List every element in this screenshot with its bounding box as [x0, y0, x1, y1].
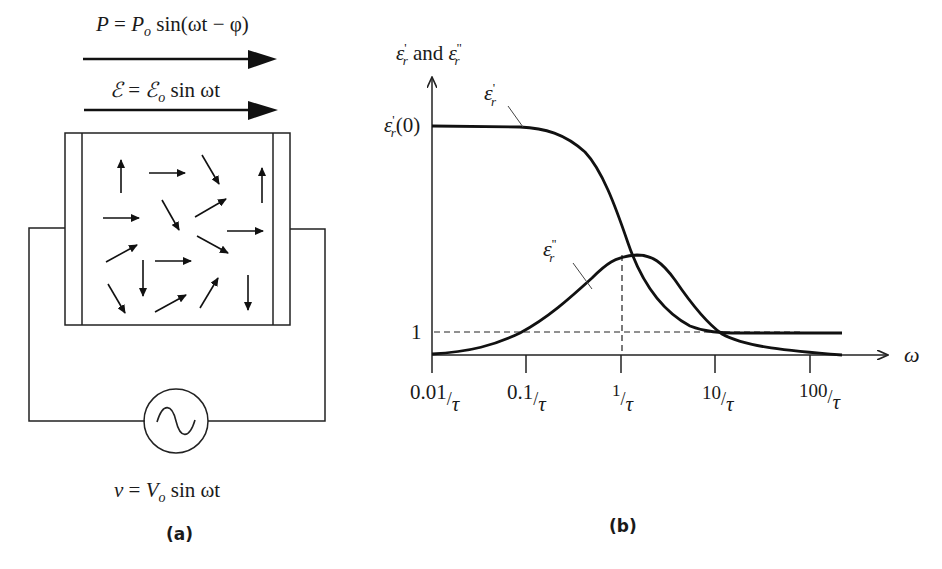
dielectric-block [65, 133, 290, 325]
source-equation: v = Vo sin ωt [114, 478, 220, 506]
ac-source-icon [144, 389, 208, 453]
x-tick-label: 100/τ [799, 378, 840, 403]
x-ticks [432, 355, 810, 373]
polarization-arrow [83, 50, 277, 69]
x-tick-label: 0.1/τ [507, 380, 546, 405]
polarization-equation: P = Po sin(ωt − φ) [96, 12, 249, 40]
curve-label-eps-real: ε'r [484, 80, 496, 110]
plot-axes [432, 77, 888, 373]
label-leader-real [508, 106, 523, 127]
x-tick-label: 1/τ [612, 380, 633, 405]
curve-label-eps-imag: ε''r [543, 236, 554, 266]
reference-lines [434, 255, 800, 355]
y-tick-eps0: ε'r(0) [384, 112, 420, 141]
x-axis-label: ω [904, 342, 920, 368]
caption-a: (a) [166, 524, 193, 544]
x-tick-label: 10/τ [702, 380, 734, 405]
caption-b: (b) [609, 516, 637, 536]
curve-eps-real [432, 126, 842, 333]
field-equation: ℰ = ℰo sin ωt [110, 78, 220, 106]
curve-eps-imag [432, 255, 842, 355]
y-tick-one: 1 [411, 320, 422, 345]
y-axis-label: ε'r and ε''r [396, 40, 460, 69]
x-tick-label: 0.01/τ [410, 380, 459, 405]
dipole-arrows [103, 155, 263, 313]
capacitor [65, 133, 290, 325]
